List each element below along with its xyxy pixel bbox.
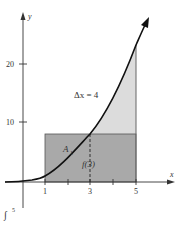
y-tick-label-20: 20 [6, 60, 14, 69]
x-tick-label-1: 1 [43, 187, 47, 196]
y-axis-label: y [27, 12, 32, 21]
x-tick-label-3: 3 [88, 187, 92, 196]
bottom-integral-fragment: ∫ [3, 209, 8, 221]
bottom-integral-limit: 5 [12, 207, 15, 213]
x-tick-label-5: 5 [134, 187, 138, 196]
f3-label: f(3) [82, 159, 95, 169]
riemann-sum-diagram: y x 20 10 1 3 5 Δx = 4 A 1 f(3) ∫ 5 [0, 0, 179, 225]
delta-x-label: Δx = 4 [74, 90, 99, 100]
y-tick-label-10: 10 [6, 118, 14, 127]
x-axis-label: x [169, 170, 174, 179]
y-axis-arrow-icon [21, 12, 26, 20]
area-label: A [62, 144, 69, 154]
x-axis-arrow-icon [167, 180, 175, 185]
curve-arrow-icon [141, 17, 149, 28]
approximating-rectangle [45, 134, 136, 182]
area-subscript: 1 [70, 150, 73, 156]
